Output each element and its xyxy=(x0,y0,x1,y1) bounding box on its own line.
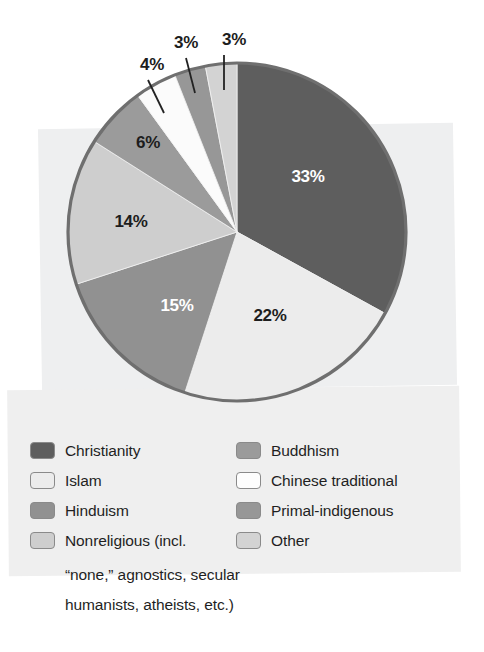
legend-item[interactable]: Nonreligious (incl. xyxy=(30,530,242,560)
pie-chart-svg: 33%22%15%14%6% 4%3%3% xyxy=(0,0,484,430)
slice-value-nonreligious: 14% xyxy=(114,212,147,231)
legend-label-nonreligious-line2: “none,” agnostics, secular xyxy=(65,560,242,590)
legend-item[interactable]: Other xyxy=(236,530,466,560)
legend-item[interactable]: Islam xyxy=(30,470,242,500)
slice-value-islam: 22% xyxy=(253,306,286,325)
legend-label-islam: Islam xyxy=(65,470,102,491)
legend-item[interactable]: Chinese traditional xyxy=(236,470,466,500)
legend-swatch-buddhism xyxy=(236,442,261,459)
legend-label-nonreligious: Nonreligious (incl. xyxy=(65,530,186,551)
legend-label-hinduism: Hinduism xyxy=(65,500,129,521)
legend-swatch-nonreligious xyxy=(30,532,55,549)
legend-item[interactable]: Hinduism xyxy=(30,500,242,530)
callout-value-label: 4% xyxy=(140,55,164,74)
legend-swatch-chinese-traditional xyxy=(236,472,261,489)
legend-label-buddhism: Buddhism xyxy=(271,440,339,461)
legend-item[interactable]: Buddhism xyxy=(236,440,466,470)
legend-swatch-islam xyxy=(30,472,55,489)
legend-label-nonreligious-line3: humanists, atheists, etc.) xyxy=(65,590,242,620)
pie-chart-page: 33%22%15%14%6% 4%3%3% Christianity Islam… xyxy=(0,0,484,652)
legend-swatch-hinduism xyxy=(30,502,55,519)
callout-value-label: 3% xyxy=(222,30,246,49)
slice-value-hinduism: 15% xyxy=(160,296,193,315)
legend-swatch-primal-indigenous xyxy=(236,502,261,519)
slice-value-christianity: 33% xyxy=(291,167,324,186)
legend-label-primal-indigenous: Primal-indigenous xyxy=(271,500,393,521)
callout-value-label: 3% xyxy=(174,33,198,52)
legend-column-right: Buddhism Chinese traditional Primal-indi… xyxy=(236,440,466,560)
pie-chart-area: 33%22%15%14%6% 4%3%3% xyxy=(0,0,484,430)
legend-label-chinese-traditional: Chinese traditional xyxy=(271,470,397,491)
legend-label-christianity: Christianity xyxy=(65,440,140,461)
pie-slices-group xyxy=(68,63,406,401)
legend-item[interactable]: Christianity xyxy=(30,440,242,470)
legend-swatch-christianity xyxy=(30,442,55,459)
legend-swatch-other xyxy=(236,532,261,549)
slice-value-buddhism: 6% xyxy=(136,133,160,152)
legend-item[interactable]: Primal-indigenous xyxy=(236,500,466,530)
legend-column-left: Christianity Islam Hinduism Nonreligious… xyxy=(30,440,242,620)
legend-label-other: Other xyxy=(271,530,309,551)
